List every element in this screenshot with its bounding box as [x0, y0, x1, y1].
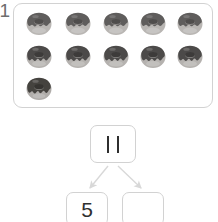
bond-whole-value — [107, 136, 119, 153]
donut-row-1 — [14, 9, 212, 39]
donut-icon — [139, 43, 167, 69]
donut-icon — [64, 10, 92, 36]
bond-whole-box[interactable] — [90, 125, 136, 163]
bond-part-left-box[interactable]: 5 — [66, 192, 108, 222]
donut-icon — [64, 43, 92, 69]
donut-icon — [102, 43, 130, 69]
donut-row-3 — [14, 74, 212, 104]
donut-icon — [102, 10, 130, 36]
bond-part-right-box[interactable] — [122, 192, 164, 222]
donut-icon — [176, 10, 204, 36]
problem-number: 1 — [0, 0, 10, 22]
bond-arrow-left — [90, 166, 108, 188]
donut-icon — [176, 43, 204, 69]
donut-icon — [139, 10, 167, 36]
donut-icon — [25, 43, 53, 69]
donut-icon — [25, 10, 53, 36]
bond-arrow-right — [118, 166, 141, 188]
donut-tray — [13, 3, 213, 108]
number-bond-diagram: 5 — [0, 118, 218, 222]
donut-icon — [25, 75, 53, 101]
donut-row-2 — [14, 42, 212, 72]
